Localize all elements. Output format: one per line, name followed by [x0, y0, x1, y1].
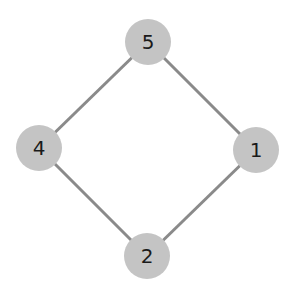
node-2: 2	[124, 233, 170, 279]
node-label: 4	[33, 136, 46, 160]
edges	[39, 42, 256, 256]
node-4: 4	[16, 125, 62, 171]
node-1: 1	[233, 127, 279, 173]
graph-canvas: 5 4 1 2	[0, 0, 285, 291]
node-label: 5	[142, 30, 155, 54]
node-5: 5	[125, 19, 171, 65]
node-label: 1	[250, 138, 263, 162]
node-label: 2	[141, 244, 154, 268]
